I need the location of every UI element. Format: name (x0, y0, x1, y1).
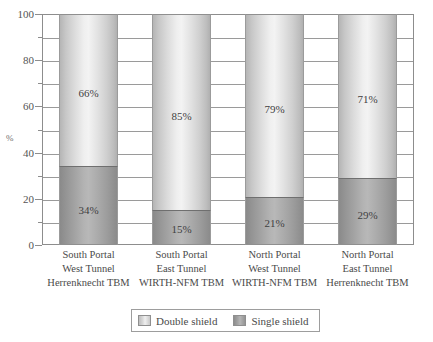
stacked-bar-chart: % 020406080100 66%34%85%15%79%21%71%29% … (0, 0, 433, 342)
y-tick-mark (35, 245, 42, 246)
bar-value-label-double-shield: 66% (59, 87, 118, 99)
bar-value-label-single-shield: 15% (152, 223, 211, 235)
y-tick-mark (35, 153, 42, 154)
bar-group[interactable]: 79%21% (245, 14, 304, 245)
y-tick-label: 40 (23, 147, 34, 159)
x-axis-labels: South PortalWest TunnelHerrenknecht TBMS… (42, 248, 414, 294)
y-tick-mark (35, 60, 42, 61)
legend-item-single-shield: Single shield (233, 315, 308, 327)
x-axis-label: North PortalWest TunnelWIRTH-NFM TBM (228, 248, 321, 290)
y-tick-label: 60 (23, 100, 34, 112)
bar-group[interactable]: 71%29% (338, 14, 397, 245)
bar-value-label-double-shield: 71% (338, 93, 397, 105)
x-axis-label-line-2: West Tunnel (42, 262, 135, 276)
legend: Double shield Single shield (131, 309, 320, 332)
y-tick-label: 80 (23, 54, 34, 66)
y-tick-label: 0 (29, 239, 35, 251)
bar-value-label-single-shield: 34% (59, 204, 118, 216)
bar-group[interactable]: 66%34% (59, 14, 118, 245)
double-shield-swatch (138, 315, 151, 326)
y-tick-mark (35, 199, 42, 200)
bars-layer: 66%34%85%15%79%21%71%29% (42, 14, 414, 245)
bar-value-label-single-shield: 21% (245, 217, 304, 229)
x-axis-label-line-3: Herrenknecht TBM (42, 276, 135, 290)
x-axis-label-line-1: South Portal (135, 248, 228, 262)
x-axis-label-line-1: South Portal (42, 248, 135, 262)
bar-value-label-double-shield: 85% (152, 110, 211, 122)
bar-group[interactable]: 85%15% (152, 14, 211, 245)
single-shield-swatch (233, 315, 246, 326)
x-axis-label-line-3: Herrenknecht TBM (321, 276, 414, 290)
y-tick-label: 100 (18, 8, 35, 20)
x-axis-label-line-1: North Portal (321, 248, 414, 262)
bar-value-label-single-shield: 29% (338, 209, 397, 221)
x-axis-label-line-3: WIRTH-NFM TBM (135, 276, 228, 290)
x-axis-label-line-2: East Tunnel (321, 262, 414, 276)
x-axis-label-line-3: WIRTH-NFM TBM (228, 276, 321, 290)
x-axis-label: South PortalWest TunnelHerrenknecht TBM (42, 248, 135, 290)
y-tick-label: 20 (23, 193, 34, 205)
x-axis-label: North PortalEast TunnelHerrenknecht TBM (321, 248, 414, 290)
legend-item-double-shield: Double shield (138, 315, 217, 327)
y-axis-ticks: 020406080100 (0, 0, 42, 245)
x-axis-label-line-1: North Portal (228, 248, 321, 262)
y-tick-mark (35, 14, 42, 15)
x-axis-label-line-2: West Tunnel (228, 262, 321, 276)
x-axis-label-line-2: East Tunnel (135, 262, 228, 276)
y-tick-mark (35, 106, 42, 107)
legend-label-double-shield: Double shield (156, 315, 217, 327)
legend-label-single-shield: Single shield (251, 315, 308, 327)
bar-value-label-double-shield: 79% (245, 103, 304, 115)
x-axis-label: South PortalEast TunnelWIRTH-NFM TBM (135, 248, 228, 290)
